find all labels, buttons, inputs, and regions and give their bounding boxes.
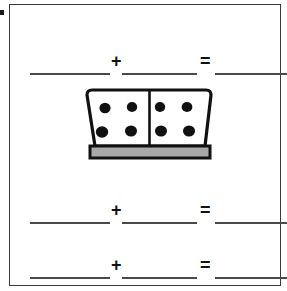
answer-blank-addend-1[interactable] <box>30 73 110 75</box>
answer-blank-addend-2[interactable] <box>122 222 197 224</box>
answer-blank-addend-2[interactable] <box>122 277 197 279</box>
plus-icon: + <box>111 256 122 274</box>
equals-icon: = <box>200 52 211 70</box>
worksheet-page: + = <box>0 0 287 291</box>
domino-illustration <box>84 88 218 162</box>
margin-mark-artifact <box>0 10 4 15</box>
equation-row-3: + = <box>20 245 282 279</box>
answer-blank-sum[interactable] <box>215 277 287 279</box>
domino-base <box>90 146 210 158</box>
equals-icon: = <box>200 201 211 219</box>
plus-icon: + <box>111 52 122 70</box>
equation-row-1: + = <box>20 41 282 75</box>
plus-icon: + <box>111 201 122 219</box>
worksheet-frame: + = <box>9 4 281 286</box>
answer-blank-addend-2[interactable] <box>122 73 197 75</box>
equation-row-2: + = <box>20 190 282 224</box>
domino-body <box>87 90 211 146</box>
answer-blank-addend-1[interactable] <box>30 277 110 279</box>
answer-blank-sum[interactable] <box>215 73 287 75</box>
answer-blank-addend-1[interactable] <box>30 222 110 224</box>
equals-icon: = <box>200 256 211 274</box>
answer-blank-sum[interactable] <box>215 222 287 224</box>
